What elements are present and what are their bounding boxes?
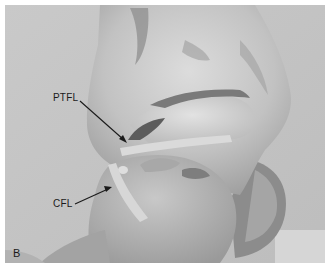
ptfl-label: PTFL [53, 93, 78, 103]
ankle-illustration [5, 5, 325, 263]
cfl-label: CFL [53, 199, 73, 209]
ankle-photograph [5, 5, 325, 263]
panel-letter: B [13, 248, 20, 259]
anatomy-figure: PTFL CFL B [0, 0, 329, 267]
